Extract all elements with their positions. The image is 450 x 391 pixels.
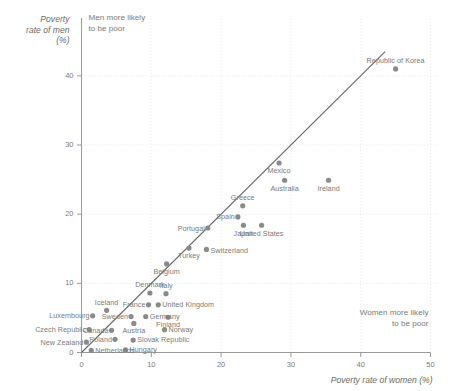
data-point-label: Luxembourg [49, 312, 89, 319]
data-point-label: Sweden [102, 313, 128, 320]
y-tick-label: 10 [65, 279, 73, 287]
x-tick-label: 10 [147, 361, 155, 369]
data-point[interactable] [163, 291, 168, 296]
data-point-label: Ireland [317, 185, 339, 192]
data-point-label: Canada [83, 327, 108, 334]
data-point-label: Austria [122, 327, 145, 334]
data-point[interactable] [393, 66, 398, 71]
data-point-label: Germany [150, 313, 180, 320]
data-point-label: Slovak Republic [137, 336, 189, 343]
data-point[interactable] [205, 225, 210, 230]
data-point-label: United States [240, 230, 284, 237]
x-tick-label: 30 [287, 361, 295, 369]
data-point-label: Switzerland [210, 247, 248, 254]
x-tick-label: 50 [426, 361, 434, 369]
data-point[interactable] [186, 245, 191, 250]
scatter-chart: 01020304001020304050New ZealandCzech Rep… [0, 0, 450, 391]
data-point-label: Greece [231, 194, 255, 201]
data-point[interactable] [84, 340, 89, 345]
data-point[interactable] [204, 247, 209, 252]
data-point[interactable] [128, 314, 133, 319]
y-axis-title-line: rate of men [26, 25, 69, 36]
y-axis-title-line: (%) [26, 35, 69, 46]
data-point[interactable] [164, 261, 169, 266]
data-point[interactable] [282, 178, 287, 183]
annotation-line: to be poor [360, 319, 429, 330]
y-tick-label: 20 [65, 210, 73, 218]
data-point-label: Mexico [267, 167, 290, 174]
data-point[interactable] [131, 321, 136, 326]
y-axis-title: Povertyrate of men(%) [26, 14, 69, 46]
data-point-label: France [123, 301, 146, 308]
annotation-line: to be poor [89, 24, 146, 35]
annotation-line: Women more likely [360, 308, 429, 319]
data-point[interactable] [89, 348, 94, 353]
x-axis-title: Poverty rate of women (%) [331, 375, 433, 386]
y-tick-label: 40 [65, 72, 73, 80]
data-point-label: United Kingdom [162, 301, 214, 308]
y-axis-title-line: Poverty [26, 14, 69, 25]
x-tick-label: 0 [79, 361, 83, 369]
data-point[interactable] [112, 337, 117, 342]
x-tick-label: 20 [217, 361, 225, 369]
data-point-label: Iceland [95, 299, 119, 306]
data-point-label: Turkey [178, 252, 200, 259]
data-point[interactable] [276, 160, 281, 165]
annotation-line: Men more likely [89, 13, 146, 24]
data-point-label: Belgium [153, 268, 179, 275]
data-point-label: Italy [159, 282, 172, 289]
data-point-label: Hungary [129, 346, 157, 353]
y-tick-label: 0 [69, 349, 73, 357]
data-point[interactable] [156, 302, 161, 307]
data-point-label: Republic of Korea [367, 57, 425, 64]
x-tick-label: 40 [357, 361, 365, 369]
data-point-label: Finland [156, 321, 180, 328]
data-point[interactable] [146, 302, 151, 307]
data-point[interactable] [109, 328, 114, 333]
data-point[interactable] [143, 314, 148, 319]
data-point[interactable] [259, 223, 264, 228]
annotation-women-more-likely: Women more likelyto be poor [360, 308, 429, 330]
data-point-label: New Zealand [40, 339, 83, 346]
y-tick-label: 30 [65, 141, 73, 149]
data-point[interactable] [240, 203, 245, 208]
data-point-label: Portugal [178, 225, 205, 232]
data-point[interactable] [147, 290, 152, 295]
data-point[interactable] [235, 214, 240, 219]
data-point-label: Czech Republic [35, 326, 86, 333]
data-point[interactable] [131, 337, 136, 342]
data-point-label: Spain [216, 213, 235, 220]
data-point[interactable] [90, 313, 95, 318]
data-point-label: Poland [89, 336, 112, 343]
data-point-label: Australia [270, 185, 298, 192]
data-point[interactable] [241, 223, 246, 228]
annotation-men-more-likely: Men more likelyto be poor [89, 13, 146, 35]
data-point[interactable] [326, 178, 331, 183]
